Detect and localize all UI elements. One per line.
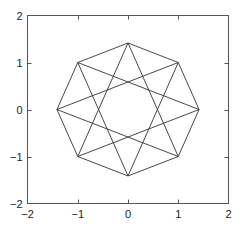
- x-tick-label: 2: [225, 208, 231, 220]
- y-tick-label: −2: [10, 198, 23, 210]
- y-tick-label: 1: [16, 57, 22, 69]
- x-tick-label: −2: [21, 208, 34, 220]
- octagon-star-plot: −2−1012 −2−1012: [0, 0, 243, 229]
- y-tick-label: 2: [16, 10, 22, 22]
- y-tick-label: 0: [16, 104, 22, 116]
- star-edge: [78, 63, 199, 110]
- y-axis-tick-labels: −2−1012: [10, 10, 23, 210]
- plot-lines: [57, 43, 199, 176]
- star-edge: [57, 110, 178, 157]
- x-tick-label: −1: [71, 208, 84, 220]
- star-edge: [57, 63, 178, 110]
- y-tick-label: −1: [10, 151, 23, 163]
- x-tick-label: 0: [125, 208, 131, 220]
- star-edge: [78, 110, 199, 157]
- x-axis-tick-labels: −2−1012: [21, 208, 231, 220]
- x-tick-label: 1: [175, 208, 181, 220]
